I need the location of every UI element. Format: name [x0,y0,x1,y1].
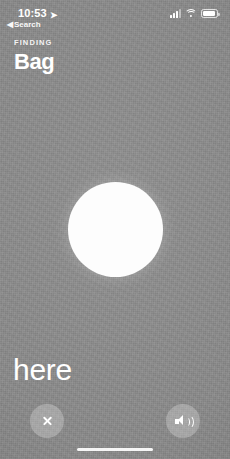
status-bar-indicators [170,9,218,18]
status-bar-time-group: 10:53➤ [18,7,58,19]
back-caret-icon: ◀ [7,20,13,28]
back-link-label: Search [14,20,41,29]
battery-icon [201,9,218,18]
speaker-wave-icon [175,415,192,428]
finding-header: FINDING Bag [14,38,54,73]
location-arrow-icon: ➤ [50,10,58,20]
proximity-circle [68,182,163,277]
cellular-signal-icon [170,9,181,18]
wifi-icon [185,9,197,18]
distance-readout: here [13,355,72,385]
find-my-precision-finding-screen: 10:53➤ ◀ Search FINDING Bag here [0,0,230,459]
status-bar-time: 10:53 [18,7,47,19]
home-indicator[interactable] [77,448,153,452]
page-title: Bag [14,50,54,73]
close-x-icon [42,416,53,427]
play-sound-button[interactable] [166,404,200,438]
close-button[interactable] [30,404,64,438]
finding-eyebrow-label: FINDING [14,38,54,47]
back-to-search-link[interactable]: ◀ Search [7,20,41,29]
